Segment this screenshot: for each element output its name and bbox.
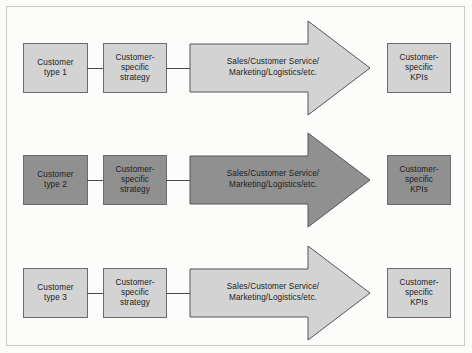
kpi-label-line1: Customer- [399,165,438,175]
strategy-box-3[interactable]: Customer- specific strategy [103,268,167,318]
flow-row-3: Customer type 3 Customer- specific strat… [0,225,472,335]
strategy-label-line3: strategy [115,298,154,308]
customer-type-box-3[interactable]: Customer type 3 [23,268,88,318]
arrow-label-line2: Marketing/Logistics/etc. [198,293,348,304]
process-arrow-label-1: Sales/Customer Service/ Marketing/Logist… [198,57,348,78]
customer-type-label-line2: type 1 [37,68,73,78]
connector-strategy-to-arrow-1 [166,68,191,69]
kpi-label-line1: Customer- [399,53,438,63]
kpi-label-line1: Customer- [399,278,438,288]
kpi-label-line2: specific [399,288,438,298]
customer-type-label-line1: Customer [37,283,73,293]
kpi-label-line2: specific [399,175,438,185]
flow-row-1: Customer type 1 Customer- specific strat… [0,0,472,110]
kpi-label-line3: KPIs [399,73,438,83]
customer-type-label-line1: Customer [37,170,73,180]
strategy-box-2[interactable]: Customer- specific strategy [103,155,167,205]
strategy-label-line2: specific [115,63,154,73]
arrow-label-line1: Sales/Customer Service/ [198,169,348,180]
kpi-box-2[interactable]: Customer- specific KPIs [387,155,451,205]
connector-strategy-to-arrow-3 [166,293,191,294]
strategy-box-1[interactable]: Customer- specific strategy [103,43,167,93]
customer-type-label-line1: Customer [37,58,73,68]
strategy-label-line1: Customer- [115,165,154,175]
customer-type-label-line2: type 2 [37,180,73,190]
process-arrow-label-2: Sales/Customer Service/ Marketing/Logist… [198,169,348,190]
kpi-label-line3: KPIs [399,298,438,308]
arrow-label-line1: Sales/Customer Service/ [198,57,348,68]
arrow-label-line1: Sales/Customer Service/ [198,282,348,293]
arrow-label-line2: Marketing/Logistics/etc. [198,180,348,191]
customer-type-box-2[interactable]: Customer type 2 [23,155,88,205]
kpi-label-line2: specific [399,63,438,73]
connector-strategy-to-arrow-2 [166,180,191,181]
customer-type-label-line2: type 3 [37,293,73,303]
strategy-label-line2: specific [115,288,154,298]
strategy-label-line3: strategy [115,73,154,83]
arrow-label-line2: Marketing/Logistics/etc. [198,68,348,79]
strategy-label-line3: strategy [115,185,154,195]
kpi-box-3[interactable]: Customer- specific KPIs [387,268,451,318]
kpi-box-1[interactable]: Customer- specific KPIs [387,43,451,93]
strategy-label-line1: Customer- [115,278,154,288]
diagram-canvas: Customer type 1 Customer- specific strat… [0,0,472,353]
connector-customer-to-strategy-3 [87,293,104,294]
flow-row-2: Customer type 2 Customer- specific strat… [0,112,472,222]
connector-customer-to-strategy-2 [87,180,104,181]
connector-customer-to-strategy-1 [87,68,104,69]
process-arrow-label-3: Sales/Customer Service/ Marketing/Logist… [198,282,348,303]
strategy-label-line2: specific [115,175,154,185]
kpi-label-line3: KPIs [399,185,438,195]
customer-type-box-1[interactable]: Customer type 1 [23,43,88,93]
strategy-label-line1: Customer- [115,53,154,63]
